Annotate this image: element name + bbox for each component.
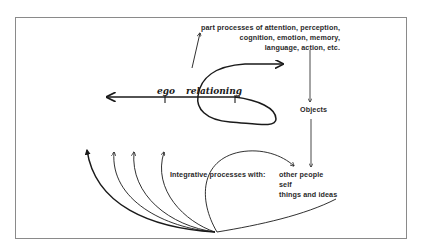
integrative-processes-label: Integrative processes with:	[170, 170, 265, 180]
target-things-and-ideas: things and ideas	[279, 190, 337, 200]
arrow-to-part-processes	[192, 33, 200, 68]
part-processes-label: part processes of attention, perception,…	[201, 23, 340, 53]
relationing-label: relationing	[186, 86, 242, 96]
part-processes-line-3: language, action, etc.	[201, 43, 340, 53]
target-self: self	[279, 180, 337, 190]
ego-label: ego	[157, 86, 175, 96]
part-processes-line-2: cognition, emotion, memory,	[201, 33, 340, 43]
target-other-people: other people	[279, 170, 337, 180]
part-processes-line-1: part processes of attention, perception,	[201, 23, 340, 33]
ego-relationing-axis	[107, 95, 240, 103]
objects-label: Objects	[300, 105, 327, 115]
integrative-targets-list: other people self things and ideas	[279, 170, 337, 200]
